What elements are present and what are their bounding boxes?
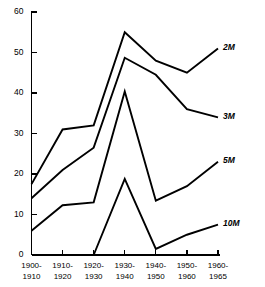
x-tick-label-line: 1900- xyxy=(21,261,42,270)
x-tick-label-line: 1920 xyxy=(54,272,72,281)
series-label-10m: 10M xyxy=(223,218,240,228)
series-label-2m: 2M xyxy=(222,42,236,52)
x-tick-label: 1960-1965 xyxy=(208,261,229,281)
x-tick-label-line: 1940- xyxy=(146,261,167,270)
series-label-5m: 5M xyxy=(223,155,236,165)
chart-canvas: 0102030405060 1900-19101910-19201920-193… xyxy=(0,0,265,287)
x-tick-label-line: 1930- xyxy=(115,261,136,270)
x-tick-label-line: 1960 xyxy=(178,272,196,281)
y-axis-tick-labels: 0102030405060 xyxy=(14,6,24,259)
x-tick-label-line: 1965 xyxy=(209,272,227,281)
x-tick-label-line: 1910 xyxy=(23,272,41,281)
x-tick-label: 1910-1920 xyxy=(52,261,73,281)
x-tick-label-line: 1950 xyxy=(147,272,165,281)
x-tick-label: 1900-1910 xyxy=(21,261,42,281)
x-axis-tick-labels: 1900-19101910-19201920-19301930-19401940… xyxy=(21,261,228,281)
y-tick-label: 50 xyxy=(14,47,24,57)
y-tick-label: 10 xyxy=(14,209,24,219)
series-lines xyxy=(32,32,219,255)
x-tick-label: 1940-1950 xyxy=(146,261,167,281)
y-tick-label: 0 xyxy=(19,249,24,259)
x-tick-label-line: 1920- xyxy=(83,261,104,270)
y-tick-label: 60 xyxy=(14,6,24,16)
x-tick-label-line: 1960- xyxy=(208,261,229,270)
y-axis-ticks xyxy=(32,12,37,255)
x-tick-label: 1950-1960 xyxy=(177,261,198,281)
series-line-2m xyxy=(32,32,219,184)
x-tick-label: 1930-1940 xyxy=(115,261,136,281)
x-tick-label: 1920-1930 xyxy=(83,261,104,281)
series-line-5m xyxy=(32,91,219,230)
x-tick-label-line: 1940 xyxy=(116,272,134,281)
series-end-labels: 2M3M5M10M xyxy=(222,42,240,228)
series-label-3m: 3M xyxy=(223,111,236,121)
y-tick-label: 40 xyxy=(14,87,24,97)
x-tick-label-line: 1910- xyxy=(52,261,73,270)
y-tick-label: 30 xyxy=(14,128,24,138)
x-axis-ticks xyxy=(32,250,219,255)
x-tick-label-line: 1930 xyxy=(85,272,103,281)
line-chart: 0102030405060 1900-19101910-19201920-193… xyxy=(0,0,265,287)
y-tick-label: 20 xyxy=(14,168,24,178)
series-line-10m xyxy=(94,179,218,255)
x-tick-label-line: 1950- xyxy=(177,261,198,270)
